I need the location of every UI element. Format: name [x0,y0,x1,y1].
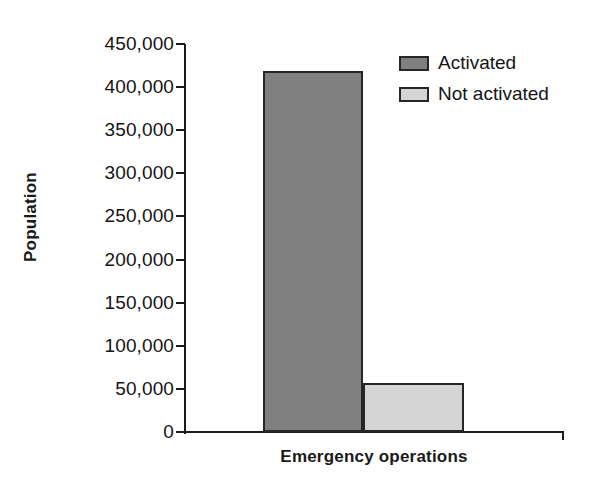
x-axis-end-tick [562,431,564,440]
y-axis-line [184,44,186,434]
legend-item-not-activated[interactable]: Not activated [399,83,549,105]
y-axis-title-text: Population [21,172,41,262]
y-tick-label: 0 [54,421,174,443]
y-axis-tick-labels: 450,000 400,000 350,000 300,000 250,000 … [50,0,174,494]
x-axis-label: Emergency operations [184,447,564,467]
bar-not-activated[interactable] [363,383,464,432]
y-tick-label: 50,000 [54,378,174,400]
y-tick-label: 400,000 [54,76,174,98]
legend-label: Activated [438,52,516,74]
y-tick-label: 450,000 [54,33,174,55]
legend-item-activated[interactable]: Activated [399,52,549,74]
legend-label: Not activated [438,83,549,105]
light-gray-swatch-icon [399,87,429,102]
y-tick-label: 300,000 [54,162,174,184]
bar-activated[interactable] [263,71,363,432]
y-tick-label: 200,000 [54,249,174,271]
y-axis-title: Population [14,0,48,434]
legend: Activated Not activated [399,52,549,105]
y-tick-label: 350,000 [54,119,174,141]
y-tick-label: 100,000 [54,335,174,357]
y-tick-label: 150,000 [54,292,174,314]
bar-chart: Population 450,000 400,000 350,000 300,0… [0,0,589,494]
dark-gray-swatch-icon [399,56,429,71]
y-tick-label: 250,000 [54,205,174,227]
